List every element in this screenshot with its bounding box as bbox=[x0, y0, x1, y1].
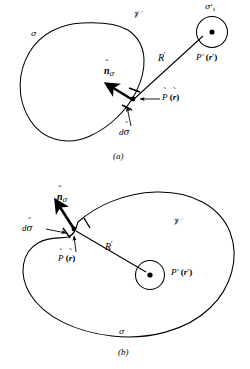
panel-a-source-surface-label: σ's bbox=[205, 3, 215, 12]
panel-a-normal-subscript: σ bbox=[110, 69, 115, 78]
panel-a-surface-element-sigma: ˜σ bbox=[124, 128, 130, 137]
panel-a-source-surface-symbol: σ' bbox=[205, 2, 213, 11]
panel-b-field-point-leader bbox=[74, 236, 76, 252]
panel-b-source-point-label: P' (r′) bbox=[171, 268, 192, 277]
panel-a-surface-element-label: d˜σ bbox=[119, 128, 130, 137]
panel-b-normal-symbol: ̂n bbox=[57, 192, 63, 202]
panel-b-surface-label: σ bbox=[119, 328, 124, 336]
panel-a-field-point-arg: (˜r) bbox=[170, 92, 180, 102]
panel-a-source-point-arg: (r′) bbox=[206, 52, 217, 62]
panel-b-distance-prime: ' bbox=[111, 240, 112, 249]
panel-a-source-circle bbox=[197, 17, 228, 48]
panel-a-distance-label: R' bbox=[158, 52, 166, 63]
panel-a-normal-symbol: ̂n bbox=[104, 66, 110, 76]
panel-b-surface-element-leader bbox=[46, 229, 66, 233]
panel-b-source-point-symbol: P' bbox=[171, 267, 178, 277]
panel-a-source-point-label: P' (r′) bbox=[196, 53, 217, 62]
panel-b-caption: (b) bbox=[118, 348, 129, 357]
panel-b-normal-vector bbox=[58, 204, 74, 229]
panel-b-volume-label: 𝒱 bbox=[172, 217, 180, 227]
panel-b-normal-label: ̂nσ bbox=[57, 192, 67, 203]
panel-b-distance-label: R' bbox=[105, 241, 113, 252]
panel-a-caption: (a) bbox=[113, 152, 124, 161]
panel-b-surface-element-sigma: ˜σ bbox=[27, 224, 33, 233]
panel-b-surface-curve bbox=[23, 192, 234, 337]
panel-a-surface-label: σ bbox=[31, 30, 36, 38]
panel-a-surface-element-ticks bbox=[122, 88, 140, 110]
panel-a-R-prime-line bbox=[134, 36, 203, 99]
panel-a-field-point-symbol: ˜P bbox=[162, 93, 168, 102]
panel-b-normal-subscript: σ bbox=[63, 195, 68, 204]
panel-b-field-point-label: ˜P (˜r) bbox=[58, 254, 75, 263]
panel-b-field-point-symbol: ˜P bbox=[58, 254, 64, 263]
panel-b-source-point-arg: (r′) bbox=[181, 267, 192, 277]
panel-b-surface-element-label: d˜σ bbox=[22, 224, 33, 233]
panel-a-field-point-label: ˜P (˜r) bbox=[162, 93, 179, 102]
panel-b-source-circle bbox=[136, 261, 165, 290]
panel-a-source-surface-subscript: s bbox=[213, 6, 215, 12]
figure-container: σ σ's 𝒱 ̂nσ R' ˜P (˜r) d˜σ P' (r′) (a) ̂… bbox=[0, 0, 250, 369]
panel-a-distance-prime: ' bbox=[164, 51, 165, 60]
panel-a-normal-label: ̂nσ bbox=[104, 66, 114, 77]
panel-a-volume-label: 𝒱 bbox=[132, 10, 140, 20]
panel-a-source-point-symbol: P' bbox=[196, 52, 203, 62]
panel-b-field-point-arg: (˜r) bbox=[66, 253, 76, 263]
